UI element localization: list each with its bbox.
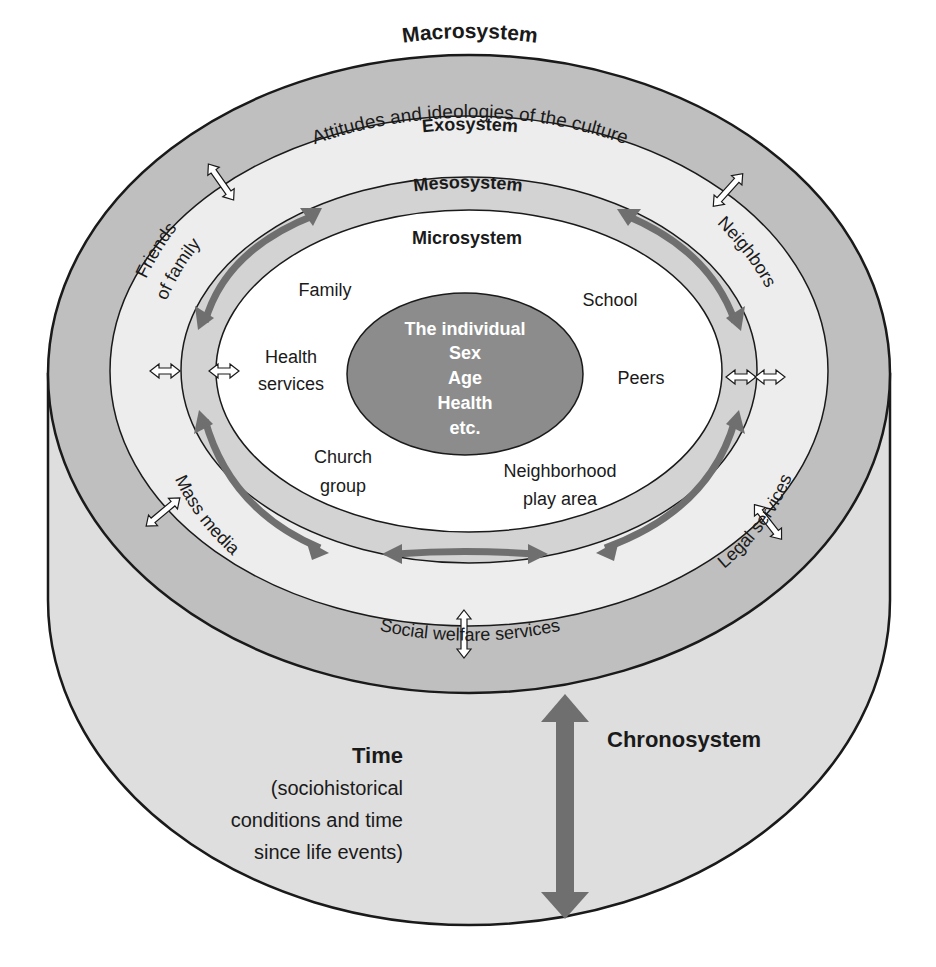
micro-item-church-line1: Church: [314, 447, 372, 467]
chronosystem-title: Chronosystem: [607, 727, 761, 752]
exosystem-title: Exosystem: [421, 114, 519, 136]
micro-item-family: Family: [299, 280, 352, 300]
time-desc-line-1: conditions and time: [231, 809, 403, 831]
micro-item-church-line2: group: [320, 476, 366, 496]
micro-item-peers: Peers: [617, 368, 664, 388]
microsystem-title: Microsystem: [412, 228, 522, 248]
micro-item-health-line1: Health: [265, 347, 317, 367]
micro-item-neighborhood-line1: Neighborhood: [503, 461, 616, 481]
micro-item-school: School: [582, 290, 637, 310]
micro-item-health-line2: services: [258, 374, 324, 394]
individual-line-0: The individual: [404, 319, 525, 339]
meso-arrow-bottom: [395, 552, 535, 555]
time-desc-line-0: (sociohistorical: [271, 777, 403, 799]
time-desc-line-2: since life events): [254, 841, 403, 863]
mesosystem-title: Mesosystem: [412, 172, 523, 195]
individual-line-2: Age: [448, 368, 482, 388]
ecological-systems-diagram: Macrosystem Attitudes and ideologies of …: [0, 0, 936, 967]
individual-line-3: Health: [437, 393, 492, 413]
macrosystem-title: Macrosystem: [401, 19, 540, 47]
micro-item-neighborhood-line2: play area: [523, 489, 598, 509]
individual-line-1: Sex: [449, 343, 481, 363]
individual-line-4: etc.: [449, 418, 480, 438]
time-title: Time: [352, 743, 403, 768]
